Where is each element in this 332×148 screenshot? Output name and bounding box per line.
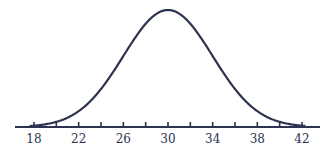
x-axis-tick-labels: 18222630343842 — [26, 132, 309, 146]
x-tick-label: 30 — [160, 132, 175, 146]
bell-curve — [30, 10, 306, 126]
x-tick-label: 22 — [71, 132, 86, 146]
x-tick-label: 42 — [294, 132, 309, 146]
x-tick-label: 34 — [205, 132, 221, 146]
x-tick-label: 26 — [116, 132, 131, 146]
x-tick-label: 18 — [26, 132, 41, 146]
normal-curve-chart: 18222630343842 — [0, 0, 332, 148]
x-tick-label: 38 — [250, 132, 265, 146]
